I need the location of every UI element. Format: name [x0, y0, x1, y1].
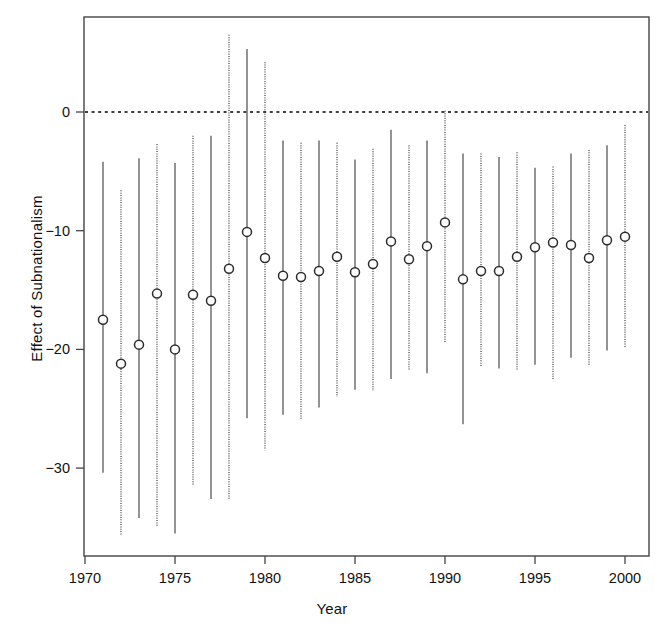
y-tick-label: −30 — [45, 460, 70, 476]
data-point-marker — [171, 345, 180, 354]
y-axis-title: Effect of Subnationalism — [28, 149, 45, 409]
x-tick-label: 1980 — [249, 570, 281, 586]
data-point-markers — [99, 218, 630, 368]
data-point-marker — [225, 264, 234, 273]
data-point-marker — [621, 232, 630, 241]
data-point-marker — [261, 254, 270, 263]
x-tick-label: 1985 — [339, 570, 371, 586]
scatter-plot-with-error-bars: 1970197519801985199019952000 0−10−20−30 — [0, 0, 664, 629]
data-point-marker — [243, 227, 252, 236]
data-point-marker — [549, 238, 558, 247]
error-bar-group — [103, 35, 625, 536]
x-tick-label: 1975 — [159, 570, 191, 586]
chart-figure: 1970197519801985199019952000 0−10−20−30 … — [0, 0, 664, 629]
x-axis-title: Year — [0, 600, 664, 617]
data-point-marker — [423, 242, 432, 251]
data-point-marker — [603, 236, 612, 245]
data-point-marker — [333, 252, 342, 261]
data-point-marker — [513, 252, 522, 261]
x-tick-label: 1990 — [429, 570, 461, 586]
y-tick-label: −10 — [45, 223, 70, 239]
y-tick-label: 0 — [62, 104, 70, 120]
x-axis: 1970197519801985199019952000 — [69, 556, 641, 586]
data-point-marker — [441, 218, 450, 227]
plot-frame — [84, 17, 649, 556]
data-point-marker — [459, 275, 468, 284]
y-tick-label: −20 — [45, 341, 70, 357]
x-tick-label: 2000 — [609, 570, 641, 586]
x-tick-label: 1995 — [519, 570, 551, 586]
data-point-marker — [585, 254, 594, 263]
y-axis: 0−10−20−30 — [45, 104, 84, 476]
data-point-marker — [567, 240, 576, 249]
data-point-marker — [207, 296, 216, 305]
data-point-marker — [405, 255, 414, 264]
data-point-marker — [153, 289, 162, 298]
data-point-marker — [369, 259, 378, 268]
data-point-marker — [495, 267, 504, 276]
data-point-marker — [99, 315, 108, 324]
data-point-marker — [351, 268, 360, 277]
data-point-marker — [477, 267, 486, 276]
data-point-marker — [135, 340, 144, 349]
data-point-marker — [189, 290, 198, 299]
x-tick-label: 1970 — [69, 570, 101, 586]
data-point-marker — [531, 243, 540, 252]
data-point-marker — [387, 237, 396, 246]
data-point-marker — [315, 267, 324, 276]
data-point-marker — [297, 272, 306, 281]
data-point-marker — [117, 359, 126, 368]
data-point-marker — [279, 271, 288, 280]
